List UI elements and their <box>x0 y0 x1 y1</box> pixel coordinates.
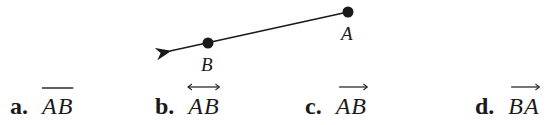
double-arrow-icon <box>188 82 219 92</box>
choice-letter: d. <box>475 94 494 122</box>
point-b-dot <box>203 38 214 49</box>
choice-d[interactable]: d. BA <box>475 84 540 122</box>
choice-letter: b. <box>155 94 174 122</box>
segment-bar-icon <box>42 82 73 92</box>
right-arrow-icon <box>336 82 367 92</box>
choice-b[interactable]: b. AB <box>155 84 220 122</box>
right-arrow-icon <box>508 82 539 92</box>
choice-a[interactable]: a. AB <box>10 84 73 122</box>
ray-line <box>170 12 348 51</box>
notation-text: AB <box>188 93 219 119</box>
point-b-label: B <box>201 55 213 74</box>
ray-figure <box>0 0 558 80</box>
notation-text: AB <box>42 93 73 119</box>
choice-letter: c. <box>305 94 322 122</box>
notation-text: BA <box>508 93 539 119</box>
notation-text: AB <box>336 93 367 119</box>
choice-c[interactable]: c. AB <box>305 84 367 122</box>
choice-letter: a. <box>10 94 28 122</box>
line-notation: AB <box>188 94 219 122</box>
ray-notation: BA <box>508 94 539 122</box>
point-a-dot <box>343 7 354 18</box>
ray-notation: AB <box>336 94 367 122</box>
segment-notation: AB <box>42 94 73 122</box>
point-a-label: A <box>341 24 353 43</box>
